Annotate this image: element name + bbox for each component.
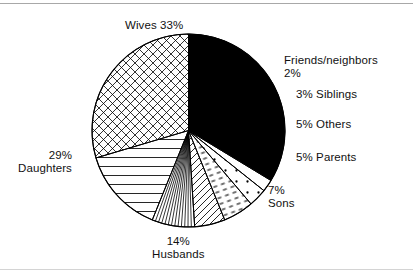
slice-label-husbands-name: Husbands bbox=[152, 248, 205, 261]
chart-figure: Wives 33% Friends/neighbors 2% 3% Siblin… bbox=[0, 0, 413, 278]
slice-label-parents: 5% Parents bbox=[296, 151, 356, 164]
slice-label-daughters-pct: 29% bbox=[18, 149, 72, 162]
slice-label-friends-neighbors-name: Friends/neighbors bbox=[284, 54, 378, 67]
slice-label-sons-pct: 7% bbox=[268, 184, 295, 197]
slice-label-wives: Wives 33% bbox=[125, 19, 183, 32]
slice-label-daughters-name: Daughters bbox=[18, 162, 72, 175]
slice-label-husbands-pct: 14% bbox=[152, 235, 205, 248]
slice-label-sons: 7% Sons bbox=[268, 184, 295, 210]
pie-chart bbox=[0, 0, 413, 278]
slice-label-friends-neighbors-pct: 2% bbox=[284, 67, 378, 80]
slice-label-others: 5% Others bbox=[296, 118, 351, 131]
slice-label-friends-neighbors: Friends/neighbors 2% bbox=[284, 54, 378, 80]
slice-label-daughters: 29% Daughters bbox=[18, 149, 72, 175]
slice-label-sons-name: Sons bbox=[268, 197, 295, 210]
slice-label-siblings: 3% Siblings bbox=[296, 88, 357, 101]
slice-label-husbands: 14% Husbands bbox=[152, 235, 205, 261]
